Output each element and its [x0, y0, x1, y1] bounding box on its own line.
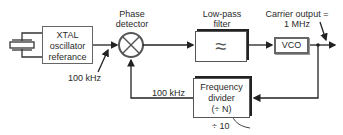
crystal-icon [10, 33, 42, 57]
carrier-output-label-2: 1 MHz [262, 19, 332, 29]
vco-label: VCO [276, 40, 307, 51]
carrier-output-label: Carrier output = 1 MHz [262, 9, 332, 29]
phase-detector-label: Phase detector [111, 9, 153, 29]
divider-line-2: divider [194, 93, 249, 104]
ref-frequency-label: 100 kHz [68, 73, 101, 83]
low-pass-filter-icon: ≈ [196, 35, 246, 57]
divide-ratio-note: ÷ 10 [212, 121, 229, 131]
divider-line-3: (÷ N) [194, 104, 249, 115]
low-pass-filter-block: ≈ [195, 31, 247, 62]
lpf-label-2: filter [196, 19, 248, 29]
low-pass-filter-label: Low-pass filter [196, 9, 248, 29]
divider-line-1: Frequency [194, 82, 249, 93]
xtal-line-1: XTAL [43, 30, 92, 41]
phase-detector-label-2: detector [111, 19, 153, 29]
phase-detector-label-1: Phase [111, 9, 153, 19]
xtal-oscillator-block: XTAL oscillator referance [42, 26, 93, 64]
frequency-divider-block: Frequency divider (÷ N) [193, 78, 250, 118]
vco-block: VCO [274, 37, 309, 54]
xtal-line-3: referance [43, 52, 92, 63]
xtal-line-2: oscillator [43, 41, 92, 52]
phase-detector-mixer-icon [119, 33, 143, 57]
lpf-label-1: Low-pass [196, 9, 248, 19]
carrier-output-label-1: Carrier output = [262, 9, 332, 19]
feedback-frequency-label: 100 kHz [152, 88, 185, 98]
